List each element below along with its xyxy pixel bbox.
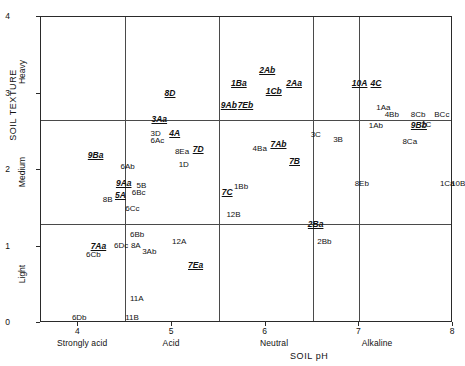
y-axis-tick-label: 2: [0, 164, 10, 174]
data-point-label: 4C: [371, 79, 382, 88]
data-point-label: 7Ea: [188, 261, 203, 270]
data-point-label: 9Ab: [221, 101, 237, 110]
x-axis-title: SOIL pH: [290, 351, 328, 361]
data-point-label: 10A: [352, 79, 368, 88]
data-point-label: 6Dc: [114, 242, 128, 250]
x-axis-tick-label: 5: [159, 326, 183, 336]
x-axis-tick-label: 4: [65, 326, 89, 336]
data-point-label: 6Bb: [130, 231, 144, 239]
data-point-label: 1Cb: [266, 87, 282, 96]
horizontal-gridline: [41, 224, 451, 225]
y-axis-tick-label: 1: [0, 241, 10, 251]
data-point-label: 1Ab: [369, 122, 383, 130]
y-axis-tick-mark: [36, 16, 40, 17]
data-point-label: 8Ca: [402, 138, 417, 146]
x-axis-band-label: Acid: [116, 338, 226, 348]
plot-area: 8D2Ab1Ba1Cb2Aa10A4C9Ab7Eb1Aa4Bb8CbBCc3Aa…: [40, 16, 452, 322]
data-point-label: 6Cc: [125, 205, 139, 213]
y-axis-tick-mark: [36, 246, 40, 247]
data-point-label: 4Bb: [385, 111, 399, 119]
data-point-label: 7C: [222, 188, 233, 197]
x-axis-band-label: Alkaline: [322, 338, 432, 348]
data-point-label: 7Ab: [270, 140, 286, 149]
data-point-label: 9Ba: [88, 151, 104, 160]
y-axis-tick-mark: [36, 93, 40, 94]
data-point-label: 8B: [103, 196, 113, 204]
data-point-label: 5A: [115, 191, 126, 200]
vertical-gridline: [359, 17, 360, 321]
vertical-gridline: [219, 17, 220, 321]
y-axis-tick-label: 4: [0, 11, 10, 21]
y-axis-tick-label: 3: [0, 88, 10, 98]
data-point-label: 4Ba: [253, 145, 267, 153]
data-point-label: 11A: [130, 295, 144, 303]
data-point-label: 7B: [289, 157, 300, 166]
data-point-label: 2Ab: [259, 66, 275, 75]
x-axis-tick-label: 8: [440, 326, 464, 336]
data-point-label: 2C: [421, 121, 431, 129]
y-axis-tick-mark: [36, 169, 40, 170]
data-point-label: 12B: [226, 211, 240, 219]
y-axis-band-label: Light: [17, 244, 27, 304]
data-point-label: 6Ac: [151, 137, 165, 145]
data-point-label: 7Aa: [91, 242, 107, 251]
data-point-label: 11B: [125, 314, 139, 322]
data-point-label: 6Ab: [121, 163, 135, 171]
data-point-label: 1Bb: [234, 183, 248, 191]
data-point-label: 7Eb: [238, 101, 254, 110]
data-point-label: 6Cb: [86, 251, 101, 259]
data-point-label: 9Aa: [116, 179, 132, 188]
data-point-label: 3B: [333, 136, 343, 144]
x-axis-tick-label: 7: [346, 326, 370, 336]
data-point-label: 3Ab: [142, 248, 156, 256]
data-point-label: BCc: [434, 111, 449, 119]
y-axis-band-label: Heavy: [17, 42, 27, 102]
y-axis-tick-label: 0: [0, 317, 10, 327]
data-point-label: 10B: [451, 180, 465, 188]
vertical-gridline: [313, 17, 314, 321]
soil-ph-texture-chart: SOIL TEXTURE SOIL pH 8D2Ab1Ba1Cb2Aa10A4C…: [0, 0, 465, 366]
data-point-label: 7D: [193, 145, 204, 154]
y-axis-tick-mark: [36, 322, 40, 323]
x-axis-tick-label: 6: [253, 326, 277, 336]
horizontal-gridline: [41, 120, 451, 121]
data-point-label: 3Aa: [151, 115, 167, 124]
data-point-label: 1Ba: [231, 79, 247, 88]
data-point-label: 3C: [311, 131, 321, 139]
data-point-label: 12A: [172, 238, 186, 246]
x-axis-band-label: Neutral: [219, 338, 329, 348]
data-point-label: 8Eb: [355, 180, 369, 188]
data-point-label: 4A: [169, 129, 180, 138]
data-point-label: 1D: [179, 161, 189, 169]
data-point-label: 2Ba: [308, 220, 324, 229]
data-point-label: 8D: [165, 89, 176, 98]
data-point-label: 8Cb: [411, 111, 426, 119]
data-point-label: 2Bb: [317, 238, 331, 246]
y-axis-band-label: Medium: [17, 142, 27, 202]
data-point-label: 8A: [131, 242, 141, 250]
data-point-label: 6Db: [72, 314, 87, 322]
data-point-label: 8Ea: [175, 148, 189, 156]
data-point-label: 2Aa: [286, 79, 302, 88]
data-point-label: 6Bc: [132, 189, 146, 197]
